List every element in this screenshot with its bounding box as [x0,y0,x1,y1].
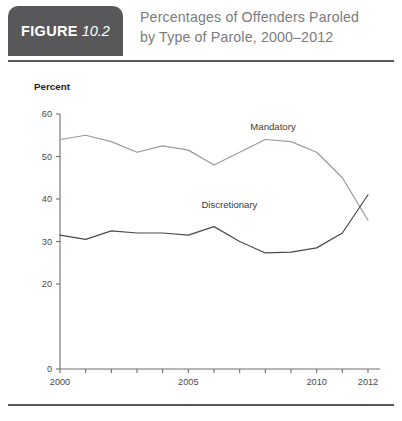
x-tick-label: 2005 [178,377,198,387]
series-label-discretionary: Discretionary [201,199,257,210]
series-label-mandatory: Mandatory [250,121,296,132]
series-labels: MandatoryDiscretionary [201,121,295,209]
y-axis-caption: Percent [34,81,71,92]
figure-badge: FIGURE 10.2 [8,6,123,56]
y-tick-label: 60 [42,109,52,119]
x-tick-label: 2000 [50,377,70,387]
chart-axes [60,114,380,369]
x-tick-label: 2012 [358,377,378,387]
y-tick-label: 40 [42,194,52,204]
figure-badge-word: FIGURE [21,23,78,39]
x-axis-ticks: 2000200520102012 [50,369,378,387]
y-axis-ticks: 02030405060 [42,109,60,374]
figure-title-line-1: Percentages of Offenders Paroled [140,7,395,27]
x-tick-label: 2010 [306,377,326,387]
chart-canvas: Percent 02030405060 2000200520102012 Man… [0,62,402,402]
figure-title: Percentages of Offenders Paroled by Type… [140,7,395,47]
line-chart: Percent 02030405060 2000200520102012 Man… [0,62,402,402]
figure-header: FIGURE 10.2 Percentages of Offenders Par… [0,0,402,62]
chart-series [60,135,368,253]
y-axis-caption-group: Percent [34,81,71,92]
y-tick-label: 30 [42,237,52,247]
figure-badge-number: 10.2 [82,23,110,39]
figure-title-line-2: by Type of Parole, 2000–2012 [140,27,395,47]
y-tick-label: 0 [47,364,52,374]
y-tick-label: 50 [42,152,52,162]
footer-divider-rule [8,404,394,406]
y-tick-label: 20 [42,279,52,289]
